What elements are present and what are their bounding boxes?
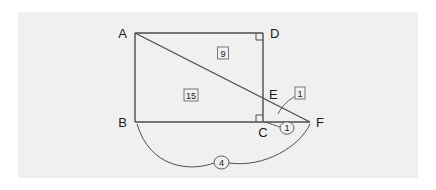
geometry-figure-canvas: A D B C E F 9 15 1 1 4 — [0, 0, 436, 190]
circled-label-1: 1 — [280, 122, 294, 134]
vertex-label-F: F — [316, 115, 324, 130]
circled-label-1-text: 1 — [284, 123, 289, 133]
boxed-label-15-text: 15 — [186, 91, 196, 101]
circled-label-4: 4 — [214, 156, 229, 169]
circled-label-4-text: 4 — [219, 158, 224, 168]
boxed-label-9: 9 — [218, 47, 229, 59]
right-angle-marker-at-D — [256, 33, 263, 40]
arc-B-to-F-left — [137, 124, 214, 167]
vertex-label-C: C — [258, 125, 267, 140]
boxed-label-1-text: 1 — [297, 89, 302, 99]
arc-B-to-F-right — [229, 124, 310, 164]
segment-A-to-F — [135, 33, 310, 122]
vertex-label-D: D — [270, 26, 279, 41]
geometry-figure-root: A D B C E F 9 15 1 1 4 — [0, 0, 436, 190]
leader-line-to-boxed-one — [278, 96, 296, 114]
vertex-label-A: A — [118, 26, 127, 41]
vertex-label-E: E — [269, 87, 278, 102]
vertex-label-B: B — [118, 115, 127, 130]
boxed-label-15: 15 — [184, 89, 198, 101]
boxed-label-9-text: 9 — [220, 49, 225, 59]
right-angle-marker-at-C — [256, 115, 263, 122]
boxed-label-1: 1 — [295, 87, 305, 99]
